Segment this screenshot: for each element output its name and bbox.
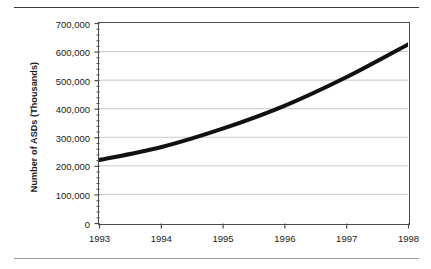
- y-tick-label: 700,000: [28, 18, 90, 29]
- y-axis-tick-labels: 0100,000200,000300,000400,000500,000600,…: [28, 0, 90, 269]
- plot-canvas: [99, 23, 408, 223]
- x-axis-tick-labels: 199319941995199619971998: [0, 233, 431, 249]
- y-tick-label: 100,000: [28, 189, 90, 200]
- x-tick-label: 1997: [322, 233, 372, 244]
- gridlines: [99, 52, 408, 195]
- x-tick-label: 1994: [136, 233, 186, 244]
- y-tick-label: 200,000: [28, 161, 90, 172]
- y-tick-label: 500,000: [28, 75, 90, 86]
- y-tick-label: 400,000: [28, 104, 90, 115]
- plot-area: [98, 22, 410, 225]
- y-tick-label: 600,000: [28, 47, 90, 58]
- chart-figure: Number of ASDs (Thousands) 0100,000200,0…: [0, 0, 431, 269]
- x-tick-label: 1998: [384, 233, 431, 244]
- data-series-line: [99, 44, 408, 160]
- y-tick-label: 0: [28, 218, 90, 229]
- bottom-divider-rule: [14, 258, 419, 259]
- x-tick-label: 1993: [75, 233, 125, 244]
- x-tick-label: 1995: [198, 233, 248, 244]
- x-tick-label: 1996: [260, 233, 310, 244]
- y-tick-label: 300,000: [28, 132, 90, 143]
